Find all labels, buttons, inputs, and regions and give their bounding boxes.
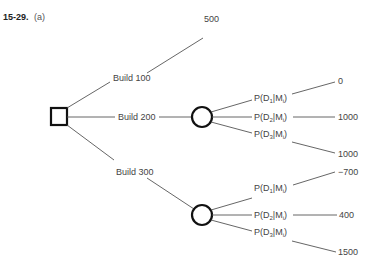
outcome-line-200-d3-end — [292, 142, 335, 153]
branch-label-build-200: Build 200 — [118, 112, 156, 122]
payoff-200-d3: 1000 — [338, 149, 358, 159]
outcome-line-200-d1-end — [292, 82, 335, 94]
decision-node — [51, 108, 67, 125]
chance-node-build-300 — [192, 205, 212, 225]
payoff-300-d3: 1500 — [338, 247, 358, 257]
outcome-line-300-d1-end — [293, 172, 335, 185]
payoff-200-d2: 1000 — [338, 112, 358, 122]
outcome-line-300-d1 — [211, 198, 252, 210]
chance-node-build-200 — [192, 107, 212, 127]
outcome-line-200-d1 — [211, 100, 252, 112]
outcome-label-300-d3: P(D3|Mi) — [254, 227, 287, 238]
outcome-line-300-d3-end — [292, 241, 336, 252]
branch-label-build-300: Build 300 — [116, 167, 154, 177]
outcome-label-300-d1: P(D1|Mi) — [254, 183, 287, 194]
branch-line-build-300-end — [147, 178, 194, 209]
branch-line-build-100 — [67, 82, 110, 108]
outcome-label-200-d3: P(D3|Mi) — [254, 129, 287, 140]
problem-part: (a) — [34, 12, 45, 22]
branch-line-build-300 — [67, 125, 114, 160]
problem-number: 15-29. — [3, 12, 29, 22]
payoff-build-100: 500 — [204, 14, 219, 24]
branch-line-build-100-end — [147, 38, 203, 73]
payoff-300-d1: −700 — [338, 167, 358, 177]
payoff-300-d2: 400 — [339, 210, 354, 220]
outcome-line-300-d3 — [211, 220, 252, 231]
outcome-line-200-d3 — [211, 122, 252, 133]
outcome-label-200-d2: P(D2|Mi) — [254, 112, 287, 123]
outcome-label-200-d1: P(D1|Mi) — [254, 93, 287, 104]
branch-label-build-100: Build 100 — [113, 73, 151, 83]
outcome-label-300-d2: P(D2|Mi) — [254, 210, 287, 221]
payoff-200-d1: 0 — [338, 76, 343, 86]
decision-tree: 15-29. (a) Build 100 500 Build 200 P(D1|… — [0, 0, 369, 266]
